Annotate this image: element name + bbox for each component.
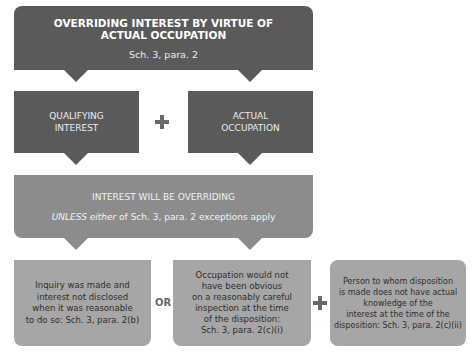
arrow-down-icon	[64, 153, 88, 165]
exception-occupation-box: Occupation would not have been obvious o…	[173, 260, 311, 346]
arrow-down-icon	[238, 70, 262, 82]
plus-icon	[155, 115, 169, 129]
actual-occupation-box: ACTUAL OCCUPATION	[188, 91, 313, 153]
or-label: OR	[155, 297, 171, 308]
qualifying-interest-box: QUALIFYING INTEREST	[14, 91, 139, 153]
arrow-down-icon	[238, 238, 262, 250]
result-box: INTEREST WILL BE OVERRIDING UNLESS eithe…	[14, 175, 313, 238]
main-subtitle: Sch. 3, para. 2	[129, 49, 198, 60]
arrow-down-icon	[64, 70, 88, 82]
plus-icon	[313, 296, 327, 310]
main-title: OVERRIDING INTEREST BY VIRTUE OF ACTUAL …	[54, 17, 273, 41]
exception-inquiry-box: Inquiry was made and interest not disclo…	[14, 260, 151, 346]
exception-knowledge-box: Person to whom disposition is made does …	[330, 260, 466, 346]
result-title: INTEREST WILL BE OVERRIDING	[92, 192, 235, 202]
arrow-down-icon	[238, 153, 262, 165]
overriding-interest-box: OVERRIDING INTEREST BY VIRTUE OF ACTUAL …	[14, 6, 313, 70]
arrow-down-icon	[64, 238, 88, 250]
result-note: UNLESS either of Sch. 3, para. 2 excepti…	[52, 212, 276, 222]
